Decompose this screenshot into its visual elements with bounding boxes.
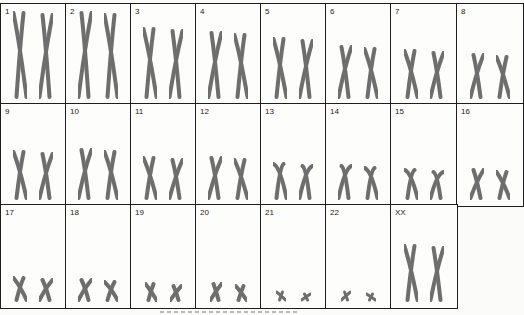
chromosome-icon — [208, 156, 222, 200]
chromosome-icon — [235, 284, 247, 302]
chromosome-pair — [196, 282, 261, 302]
chromosome-number-label: 8 — [461, 7, 465, 16]
chromosome-number-label: 5 — [265, 7, 269, 16]
chromosome-pair — [391, 49, 457, 99]
chromosome-icon — [496, 170, 510, 200]
karyotype-cell-18: 18 — [65, 204, 132, 309]
karyotype-cell-20: 20 — [195, 204, 262, 309]
karyotype-cell-7: 7 — [390, 3, 458, 106]
chromosome-icon — [430, 246, 444, 302]
chromosome-icon — [143, 27, 157, 99]
chromosome-pair — [326, 290, 391, 302]
chromosome-number-label: 3 — [135, 7, 139, 16]
chromosome-icon — [470, 168, 484, 200]
figure-caption-cutoff — [160, 306, 300, 315]
chromosome-icon — [145, 282, 157, 302]
chromosome-icon — [234, 158, 248, 200]
chromosome-pair — [66, 148, 131, 200]
karyotype-cell-1: 1 — [0, 3, 67, 106]
chromosome-number-label: 4 — [200, 7, 204, 16]
chromosome-pair — [326, 164, 391, 200]
chromosome-pair — [1, 150, 66, 200]
chromosome-number-label: 7 — [395, 7, 399, 16]
chromosome-number-label: 14 — [330, 107, 339, 116]
chromosome-icon — [169, 158, 183, 200]
karyotype-cell-2: 2 — [65, 3, 132, 106]
karyotype-cell-19: 19 — [130, 204, 197, 309]
chromosome-icon — [78, 148, 92, 200]
karyotype-cell-15: 15 — [390, 103, 458, 207]
chromosome-icon — [366, 292, 376, 302]
chromosome-pair — [196, 31, 261, 99]
chromosome-icon — [404, 168, 418, 200]
chromosome-icon — [430, 170, 444, 200]
chromosome-icon — [39, 278, 53, 302]
chromosome-pair — [196, 156, 261, 200]
chromosome-number-label: 11 — [135, 107, 143, 116]
karyotype-cell-9: 9 — [0, 103, 67, 207]
chromosome-icon — [273, 37, 287, 99]
chromosome-number-label: XX — [395, 208, 406, 217]
karyotype-cell-14: 14 — [325, 103, 392, 207]
karyotype-cell-21: 21 — [260, 204, 327, 309]
chromosome-icon — [470, 53, 484, 99]
karyotype-cell-5: 5 — [260, 3, 327, 106]
chromosome-icon — [143, 156, 157, 200]
chromosome-icon — [276, 290, 286, 302]
chromosome-number-label: 15 — [395, 107, 404, 116]
chromosome-number-label: 21 — [265, 208, 274, 217]
chromosome-icon — [104, 150, 118, 200]
chromosome-icon — [496, 55, 510, 99]
chromosome-pair — [131, 156, 196, 200]
chromosome-icon — [169, 29, 183, 99]
chromosome-icon — [234, 33, 248, 99]
chromosome-icon — [39, 13, 53, 99]
chromosome-pair — [66, 11, 131, 99]
chromosome-pair — [457, 53, 523, 99]
chromosome-number-label: 18 — [70, 208, 79, 217]
chromosome-number-label: 10 — [70, 107, 79, 116]
chromosome-pair — [391, 244, 457, 302]
chromosome-icon — [78, 11, 92, 99]
chromosome-icon — [341, 290, 351, 302]
karyotype-cell-6: 6 — [325, 3, 392, 106]
karyotype-cell-11: 11 — [130, 103, 197, 207]
chromosome-icon — [404, 244, 418, 302]
chromosome-icon — [78, 278, 92, 302]
chromosome-icon — [364, 166, 378, 200]
chromosome-pair — [457, 168, 523, 200]
chromosome-pair — [391, 168, 457, 200]
karyotype-cell-8: 8 — [456, 3, 524, 106]
chromosome-pair — [261, 37, 326, 99]
karyotype-cell-22: 22 — [325, 204, 392, 309]
chromosome-icon — [430, 51, 444, 99]
chromosome-number-label: 20 — [200, 208, 209, 217]
chromosome-icon — [273, 162, 287, 200]
chromosome-pair — [131, 282, 196, 302]
chromosome-icon — [338, 164, 352, 200]
karyotype-cell-16: 16 — [456, 103, 524, 207]
chromosome-icon — [299, 164, 313, 200]
chromosome-icon — [104, 13, 118, 99]
chromosome-icon — [301, 292, 311, 302]
chromosome-icon — [299, 39, 313, 99]
chromosome-icon — [104, 280, 118, 302]
karyotype-cell-3: 3 — [130, 3, 197, 106]
chromosome-icon — [39, 152, 53, 200]
chromosome-icon — [13, 150, 27, 200]
chromosome-number-label: 9 — [5, 107, 9, 116]
chromosome-pair — [326, 45, 391, 99]
chromosome-number-label: 17 — [5, 208, 14, 217]
chromosome-icon — [13, 11, 27, 99]
karyotype-cell-13: 13 — [260, 103, 327, 207]
chromosome-icon — [210, 282, 222, 302]
chromosome-pair — [261, 290, 326, 302]
karyotype-cell-4: 4 — [195, 3, 262, 106]
chromosome-icon — [208, 31, 222, 99]
chromosome-number-label: 22 — [330, 208, 339, 217]
chromosome-number-label: 12 — [200, 107, 209, 116]
karyotype-cell-17: 17 — [0, 204, 67, 309]
chromosome-pair — [66, 278, 131, 302]
karyotype-cell-12: 12 — [195, 103, 262, 207]
chromosome-icon — [170, 284, 182, 302]
